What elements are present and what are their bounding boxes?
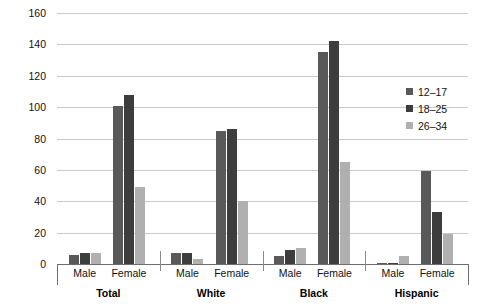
bar: [238, 201, 248, 264]
legend-swatch-icon: [406, 105, 413, 112]
x-axis-right-tick: [468, 264, 469, 285]
bar: [329, 41, 339, 264]
bar: [340, 162, 350, 264]
bar: [69, 255, 79, 264]
bar: [80, 253, 90, 264]
bar: [318, 52, 328, 264]
plot-area: [57, 13, 468, 264]
legend: 12–1718–2526–34: [406, 82, 447, 133]
bar-cluster: [274, 13, 306, 264]
bar: [432, 212, 442, 264]
legend-item: 12–17: [406, 82, 447, 99]
bar-cluster: [421, 13, 453, 264]
group-label: Hispanic: [377, 288, 457, 299]
legend-item: 18–25: [406, 99, 447, 116]
y-axis-tick-labels: 020406080100120140160: [0, 13, 50, 264]
legend-label: 26–34: [418, 121, 447, 132]
bar-chart: 020406080100120140160 MaleFemaleMaleFema…: [0, 0, 481, 308]
bar: [182, 253, 192, 264]
bar: [296, 248, 306, 264]
y-tick-label: 100: [28, 102, 46, 113]
legend-swatch-icon: [406, 88, 413, 95]
sex-label: Female: [202, 268, 262, 279]
bar: [443, 234, 453, 264]
bar: [113, 106, 123, 264]
bar: [91, 253, 101, 264]
bar: [421, 171, 431, 264]
bar: [274, 256, 284, 264]
bar-cluster: [113, 13, 145, 264]
sex-label: Female: [304, 268, 364, 279]
y-tick-label: 120: [28, 71, 46, 82]
group-label: White: [171, 288, 251, 299]
bar: [171, 253, 181, 264]
y-tick-label: 60: [34, 165, 46, 176]
y-tick-label: 40: [34, 196, 46, 207]
legend-label: 18–25: [418, 104, 447, 115]
y-tick-label: 20: [34, 227, 46, 238]
bar-cluster: [216, 13, 248, 264]
bar-cluster: [69, 13, 101, 264]
group-label: Total: [68, 288, 148, 299]
y-tick-label: 80: [34, 133, 46, 144]
legend-label: 12–17: [418, 87, 447, 98]
bar-cluster: [171, 13, 203, 264]
bar: [399, 256, 409, 264]
bar-cluster: [377, 13, 409, 264]
bar: [135, 187, 145, 264]
bar-groups: [57, 13, 468, 264]
legend-swatch-icon: [406, 122, 413, 129]
bar: [227, 129, 237, 264]
y-tick-label: 0: [40, 259, 46, 270]
bar: [124, 95, 134, 264]
bar-cluster: [318, 13, 350, 264]
sex-label: Female: [99, 268, 159, 279]
legend-item: 26–34: [406, 116, 447, 133]
y-tick-label: 160: [28, 8, 46, 19]
bar: [285, 250, 295, 264]
bar: [216, 131, 226, 264]
group-label: Black: [274, 288, 354, 299]
y-tick-label: 140: [28, 39, 46, 50]
sex-label: Female: [407, 268, 467, 279]
